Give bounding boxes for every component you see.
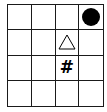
cell-2-1[interactable] [32,56,56,81]
cell-2-3[interactable] [79,56,103,81]
hash-piece-icon: # [60,59,74,76]
triangle-piece-icon [58,34,76,50]
cell-2-2[interactable]: # [56,56,80,81]
cell-1-1[interactable] [32,30,56,55]
cell-0-3[interactable] [79,5,103,30]
cell-0-0[interactable] [8,5,32,30]
cell-1-3[interactable] [79,30,103,55]
cell-2-0[interactable] [8,56,32,81]
circle-piece-icon [82,8,100,26]
cell-3-2[interactable] [56,81,80,106]
cell-3-0[interactable] [8,81,32,106]
cell-1-2[interactable] [56,30,80,55]
cell-3-3[interactable] [79,81,103,106]
cell-3-1[interactable] [32,81,56,106]
cell-0-1[interactable] [32,5,56,30]
cell-1-0[interactable] [8,30,32,55]
cell-0-2[interactable] [56,5,80,30]
game-board: # [7,4,104,107]
